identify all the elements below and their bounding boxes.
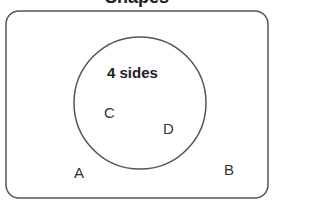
four-sides-circle bbox=[74, 37, 206, 169]
label-a: A bbox=[74, 164, 84, 181]
label-b: B bbox=[224, 161, 234, 178]
label-c: C bbox=[104, 104, 115, 121]
circle-heading: 4 sides bbox=[107, 64, 158, 81]
label-d: D bbox=[163, 120, 174, 137]
